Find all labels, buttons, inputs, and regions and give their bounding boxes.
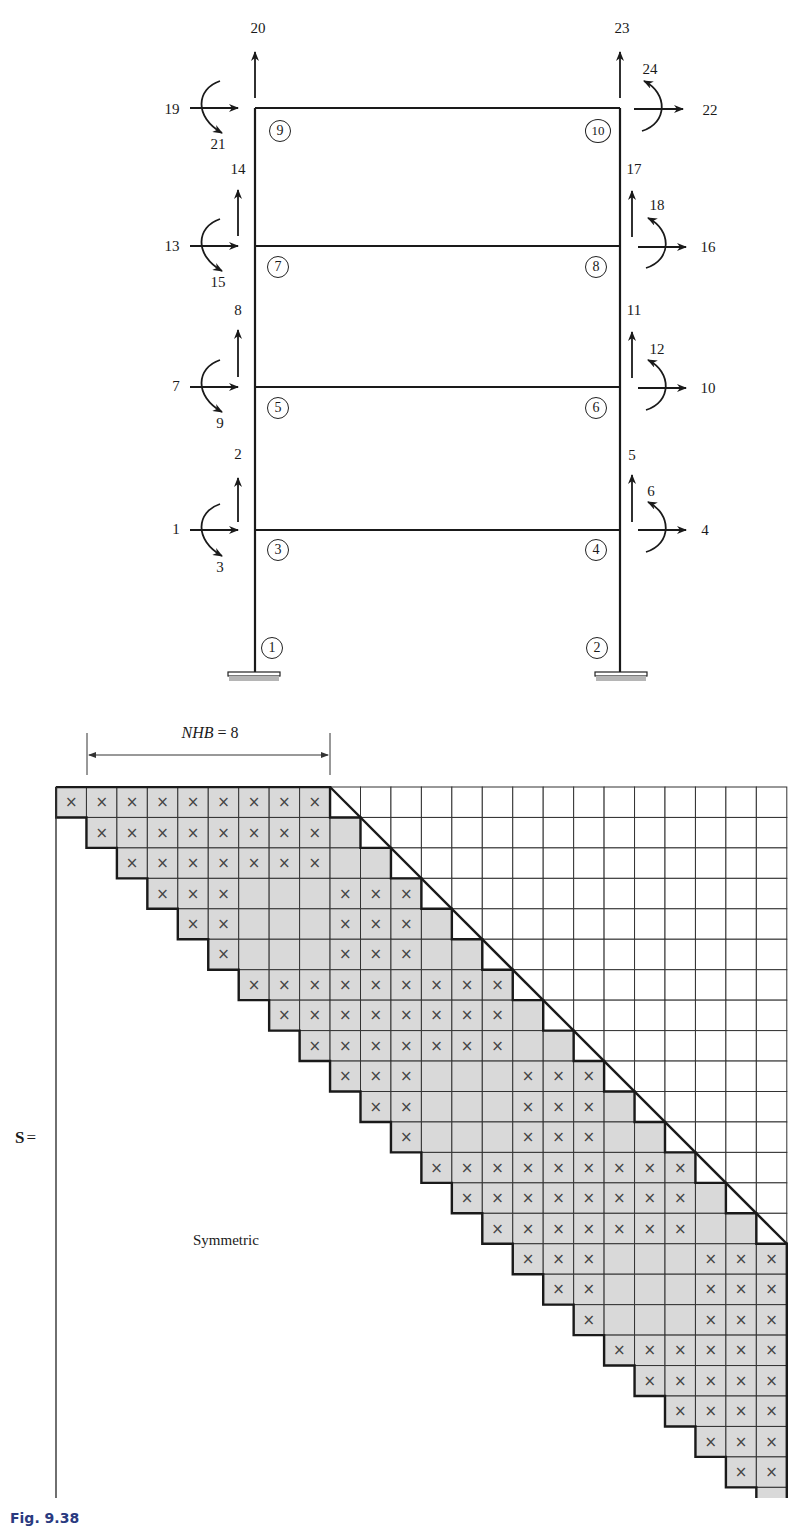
nonzero-mark: × [613,1159,626,1177]
band-cell [330,817,360,847]
matrix-name-label: S= [15,1128,36,1148]
nonzero-mark: × [369,1098,382,1116]
band-cell [421,1122,451,1152]
nonzero-mark: × [491,976,504,994]
nonzero-mark: × [187,885,200,903]
empty-cell [635,1000,665,1030]
nonzero-mark: × [765,1341,778,1359]
empty-cell [726,817,756,847]
nonzero-mark: × [400,1037,413,1055]
band-cell [482,1122,512,1152]
matrix-equals: = [26,1128,36,1147]
empty-cell [695,848,725,878]
nonzero-mark: × [552,1280,565,1298]
band-cell [695,1183,725,1213]
empty-cell [695,909,725,939]
empty-cell [574,787,604,817]
nonzero-mark: × [491,1189,504,1207]
empty-cell [452,848,482,878]
nonzero-mark: × [309,854,322,872]
empty-cell [665,1031,695,1061]
empty-cell [695,1092,725,1122]
empty-cell [391,787,421,817]
nonzero-mark: × [248,976,261,994]
nonzero-mark: × [613,1341,626,1359]
empty-cell [756,939,786,969]
empty-cell [421,787,451,817]
nonzero-mark: × [339,945,352,963]
nonzero-mark: × [217,945,230,963]
nonzero-mark: × [522,1067,535,1085]
empty-cell [574,848,604,878]
empty-cell [635,970,665,1000]
nonzero-mark: × [583,1311,596,1329]
nonzero-mark: × [552,1189,565,1207]
nonzero-mark: × [187,854,200,872]
nonzero-mark: × [765,1463,778,1481]
band-cell [513,1031,543,1061]
empty-cell [543,878,573,908]
nonzero-mark: × [704,1372,717,1390]
empty-cell [695,939,725,969]
band-cell [239,909,269,939]
nonzero-mark: × [126,793,139,811]
empty-cell [695,1000,725,1030]
empty-cell [543,970,573,1000]
band-cell [239,939,269,969]
band-cell [421,909,451,939]
nonzero-mark: × [400,1128,413,1146]
empty-cell [452,787,482,817]
empty-cell [574,909,604,939]
nonzero-mark: × [339,976,352,994]
nonzero-mark: × [156,793,169,811]
nonzero-mark: × [65,793,78,811]
nonzero-mark: × [583,1220,596,1238]
nonzero-mark: × [765,1402,778,1420]
matrix-symbol: S [15,1128,24,1147]
figure-caption: Fig. 9.38 [10,1510,79,1526]
empty-cell [756,1000,786,1030]
nonzero-mark: × [400,1006,413,1024]
nonzero-mark: × [674,1372,687,1390]
nonzero-mark: × [217,793,230,811]
empty-cell [421,848,451,878]
empty-cell [513,939,543,969]
nonzero-mark: × [522,1159,535,1177]
nonzero-mark: × [400,915,413,933]
empty-cell [756,970,786,1000]
nonzero-mark: × [735,1311,748,1329]
nonzero-mark: × [735,1433,748,1451]
nonzero-mark: × [643,1372,656,1390]
nonzero-mark: × [735,1402,748,1420]
empty-cell [726,878,756,908]
band-cell [665,1305,695,1335]
nonzero-mark: × [704,1311,717,1329]
nonzero-mark: × [217,885,230,903]
nonzero-mark: × [765,1311,778,1329]
nonzero-mark: × [430,1006,443,1024]
empty-cell [604,817,634,847]
nonzero-mark: × [278,824,291,842]
empty-cell [513,848,543,878]
nonzero-mark: × [309,1006,322,1024]
nonzero-mark: × [400,885,413,903]
band-cell [482,1092,512,1122]
nonzero-mark: × [156,824,169,842]
stiffness-matrix-band: ××××××××××××××××××××××××××××××××××××××××… [55,786,790,1498]
empty-cell [635,939,665,969]
nonzero-mark: × [765,1250,778,1268]
nonzero-mark: × [339,1006,352,1024]
nonzero-mark: × [248,854,261,872]
nonzero-mark: × [217,915,230,933]
nonzero-mark: × [309,1037,322,1055]
band-cell [604,1305,634,1335]
empty-cell [361,787,391,817]
empty-cell [452,817,482,847]
band-cell [269,878,299,908]
empty-cell [695,1031,725,1061]
nonzero-mark: × [461,1006,474,1024]
empty-cell [756,878,786,908]
empty-cell [726,1152,756,1182]
nonzero-mark: × [765,1494,778,1498]
empty-cell [665,817,695,847]
